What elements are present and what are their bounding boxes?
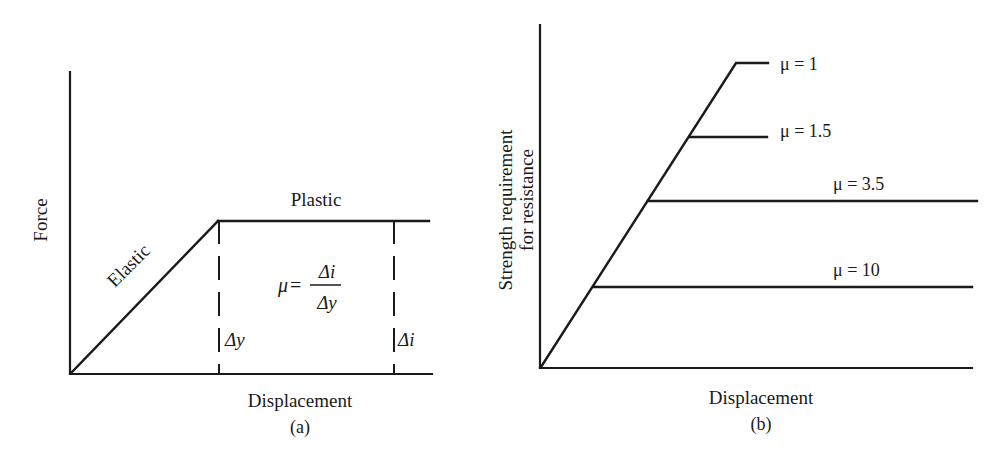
curve-label-mu-10: μ = 10: [833, 260, 880, 280]
formula-mu: μ: [277, 274, 288, 297]
panel-a-ultimate-marker: Δi: [397, 329, 414, 350]
formula-equals: =: [290, 274, 301, 296]
curve-label-mu-3p5: μ = 3.5: [833, 174, 884, 194]
panel-b-y-label-line1: Strength requirement: [495, 129, 516, 291]
panel-b-elastic-line: [541, 63, 768, 367]
curve-label-mu-1: μ = 1: [780, 54, 818, 74]
panel-a-plastic-label: Plastic: [291, 189, 342, 210]
panel-a-caption: (a): [290, 417, 310, 438]
panel-b-y-label-line2: for resistance: [516, 149, 537, 251]
panel-a-formula: μ = Δi Δy: [277, 261, 341, 313]
figure-canvas: Force Elastic Plastic μ = Δi Δy Δy Δi Di…: [0, 0, 1008, 465]
panel-a-yield-marker: Δy: [224, 329, 245, 350]
panel-a-elastic-label: Elastic: [103, 240, 154, 291]
formula-numerator: Δi: [318, 261, 335, 282]
panel-a: [70, 72, 432, 374]
panel-a-x-label: Displacement: [248, 390, 353, 411]
formula-denominator: Δy: [316, 292, 337, 313]
panel-a-y-label: Force: [30, 198, 51, 241]
panel-a-elastic-line: [71, 221, 218, 373]
panel-b: [540, 25, 977, 368]
panel-b-x-label: Displacement: [709, 387, 814, 408]
curve-label-mu-1p5: μ = 1.5: [780, 121, 831, 141]
panel-b-caption: (b): [751, 414, 772, 435]
